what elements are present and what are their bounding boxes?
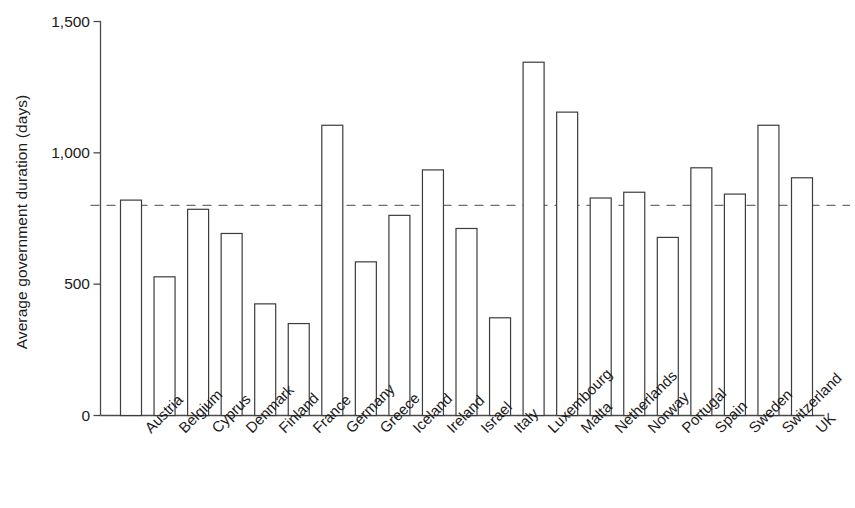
bar xyxy=(322,125,343,415)
bar xyxy=(389,215,410,415)
bar xyxy=(624,192,645,415)
bar xyxy=(657,237,678,415)
bar xyxy=(590,198,611,415)
bar xyxy=(691,168,712,416)
bar xyxy=(188,209,209,415)
bar xyxy=(557,112,578,415)
bars xyxy=(121,62,813,415)
bar xyxy=(422,170,443,416)
bar xyxy=(490,318,511,416)
plot-area xyxy=(0,0,855,508)
bar xyxy=(523,62,544,415)
bar xyxy=(355,262,376,416)
bar xyxy=(456,228,477,415)
bar xyxy=(758,125,779,415)
bar xyxy=(792,178,813,416)
bar xyxy=(724,194,745,415)
bar xyxy=(221,233,242,415)
bar xyxy=(288,324,309,416)
y-axis-ticks xyxy=(94,22,101,416)
bar-chart: Average government duration (days) 05001… xyxy=(0,0,855,508)
bar xyxy=(255,304,276,416)
bar xyxy=(154,277,175,416)
bar xyxy=(121,200,142,415)
